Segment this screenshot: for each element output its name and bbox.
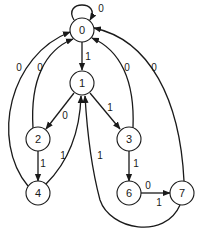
node-0: 0 (70, 18, 94, 42)
node-4: 4 (26, 181, 50, 205)
edge-label-0-0: 0 (98, 3, 104, 14)
edge-label-6-7-bottom: 1 (156, 197, 162, 208)
diagram-canvas: 0 1 0 1 0 0 0 0 1 1 1 0 1 1 0 1 2 3 4 6 … (0, 0, 205, 235)
node-3: 3 (117, 127, 141, 151)
node-7: 7 (170, 181, 194, 205)
node-6: 6 (117, 181, 141, 205)
svg-text:1: 1 (79, 77, 85, 89)
edge-label-1-3: 1 (107, 102, 113, 113)
edge-1-2 (46, 93, 74, 129)
svg-text:6: 6 (126, 187, 132, 199)
edge-3-0 (92, 38, 133, 128)
edge-label-3-0: 0 (124, 62, 130, 73)
edge-1-3 (90, 93, 120, 129)
edge-label-7-1: 1 (97, 150, 103, 161)
node-2: 2 (26, 127, 50, 151)
node-1: 1 (70, 71, 94, 95)
edge-label-4-1: 1 (60, 150, 66, 161)
edge-label-0-1: 1 (85, 51, 91, 62)
edge-label-1-2: 0 (62, 110, 68, 121)
svg-text:4: 4 (35, 187, 41, 199)
edge-label-2-0: 0 (37, 62, 43, 73)
edge-label-6-7-top: 0 (145, 180, 151, 191)
edge-label-3-6: 1 (133, 158, 139, 169)
svg-text:3: 3 (126, 133, 132, 145)
edge-label-2-4: 1 (40, 158, 46, 169)
edge-label-4-0: 0 (16, 62, 22, 73)
edge-label-7-0: 0 (151, 62, 157, 73)
svg-text:7: 7 (179, 187, 185, 199)
svg-text:2: 2 (35, 133, 41, 145)
svg-text:0: 0 (79, 24, 85, 36)
state-diagram: 0 1 0 1 0 0 0 0 1 1 1 0 1 1 0 1 2 3 4 6 … (0, 0, 205, 235)
